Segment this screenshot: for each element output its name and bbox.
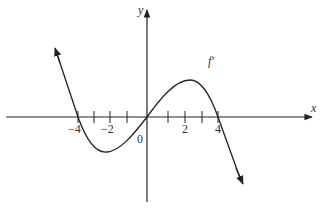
right-arrow-icon	[236, 168, 243, 184]
tick-label-2: 2	[182, 122, 188, 136]
tick-label-neg2: −2	[101, 122, 114, 136]
graph-canvas: x y f′ −4 −2 0 2 4	[0, 0, 321, 212]
x-axis-label: x	[310, 101, 317, 115]
f-prime-curve	[57, 54, 240, 178]
left-arrow-icon	[55, 48, 60, 63]
curve-label: f′	[208, 54, 214, 68]
y-axis-label: y	[137, 3, 144, 17]
tick-label-neg4: −4	[68, 122, 81, 136]
tick-label-4: 4	[215, 122, 221, 136]
tick-label-0: 0	[137, 132, 143, 146]
